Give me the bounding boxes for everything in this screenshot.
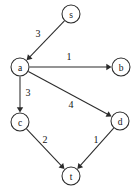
edge-weight-a-b: 1 [67, 51, 72, 62]
edge-weight-a-c: 3 [26, 87, 31, 98]
node-label-d: d [118, 117, 123, 127]
edge-s-a [27, 21, 65, 60]
node-b[interactable]: b [112, 58, 130, 76]
arrowhead-icon-a-b [106, 64, 111, 70]
node-c[interactable]: c [11, 113, 29, 131]
edge-a-d [28, 72, 111, 117]
node-a[interactable]: a [11, 58, 29, 76]
graph-diagram: sabcdt 313421 [0, 0, 139, 192]
node-label-t: t [70, 172, 73, 182]
edge-weights-layer: 313421 [26, 28, 99, 145]
edge-weight-a-d: 4 [69, 99, 74, 110]
node-t[interactable]: t [62, 167, 80, 185]
edge-a-c [17, 77, 23, 113]
edge-a-b [30, 64, 112, 70]
graph-svg: sabcdt 313421 [0, 0, 139, 192]
edges-layer [17, 21, 114, 169]
node-label-s: s [69, 10, 73, 20]
edge-weight-d-t: 1 [94, 134, 99, 145]
arrowhead-icon-a-c [17, 107, 23, 112]
edge-weight-s-a: 3 [36, 28, 41, 39]
node-label-c: c [18, 118, 22, 128]
node-label-b: b [119, 63, 124, 73]
edge-line-s-a [29, 21, 64, 57]
node-d[interactable]: d [111, 112, 129, 130]
edge-weight-c-t: 2 [43, 134, 48, 145]
node-s[interactable]: s [62, 5, 80, 23]
